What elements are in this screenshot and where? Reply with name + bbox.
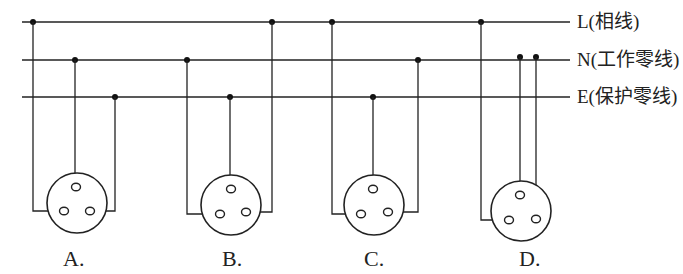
option-d-label: D.	[519, 246, 540, 271]
option-b-label: B.	[222, 246, 242, 271]
option-a-socket: A.	[30, 19, 118, 271]
option-d-socket: D.	[478, 19, 551, 271]
earth-wire-label: E(保护零线)	[577, 86, 677, 108]
socket-wiring-diagram: L(相线) N(工作零线) E(保护零线) A. B.	[0, 0, 683, 274]
live-wire-label: L(相线)	[577, 11, 639, 33]
option-a-label: A.	[63, 246, 84, 271]
socket-icon	[491, 181, 551, 241]
socket-icon	[47, 173, 107, 233]
option-c-socket: C.	[329, 19, 421, 271]
neutral-wire-label: N(工作零线)	[577, 49, 679, 71]
option-c-label: C.	[364, 246, 384, 271]
socket-icon	[201, 175, 261, 235]
option-b-socket: B.	[184, 19, 275, 271]
socket-icon	[344, 175, 404, 235]
